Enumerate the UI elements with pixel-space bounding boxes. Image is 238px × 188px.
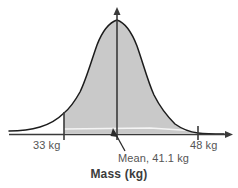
x-axis-arrowhead [225, 131, 233, 138]
axis-tick-label-48kg: 48 kg [190, 139, 217, 151]
shaded-area-under-curve [64, 20, 198, 133]
x-axis-title: Mass (kg) [0, 167, 238, 181]
normal-distribution-figure: 33 kg 48 kg Mean, 41.1 kg Mass (kg) [0, 0, 238, 188]
axis-tick-label-33kg: 33 kg [33, 139, 60, 151]
mean-annotation-label: Mean, 41.1 kg [118, 152, 189, 164]
mean-axis-arrowhead [114, 7, 121, 15]
